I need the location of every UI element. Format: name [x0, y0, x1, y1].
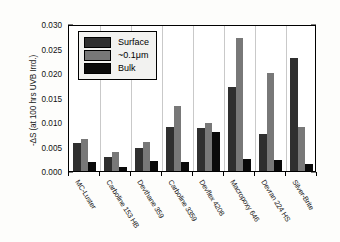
bar — [135, 148, 143, 171]
bar — [81, 139, 89, 171]
bar — [104, 157, 112, 171]
x-tick-mark — [130, 172, 131, 176]
bar — [305, 164, 313, 171]
gridline — [162, 26, 163, 171]
chart-figure: -ΔS (at 100 hrs UVB Irrd.) 0.0000.0050.0… — [0, 0, 340, 242]
y-tick-label: 0.000 — [22, 168, 62, 177]
legend-label: Bulk — [118, 64, 136, 73]
x-tick-label: Silver-Brite — [290, 178, 316, 212]
x-tick-label: Carboline 3359 — [166, 178, 199, 223]
legend-label: ~0.1μm — [118, 51, 148, 60]
legend-swatch — [84, 37, 111, 48]
x-tick-label: Devflex 4208 — [197, 178, 226, 217]
legend-item: Bulk — [84, 62, 149, 75]
legend-item: Surface — [84, 36, 149, 49]
bar — [212, 132, 220, 171]
x-tick-mark — [192, 172, 193, 176]
bar — [290, 58, 298, 171]
x-tick-mark — [99, 172, 100, 176]
y-tick-label: 0.005 — [22, 143, 62, 152]
bar — [197, 128, 205, 171]
y-tick-label: 0.010 — [22, 119, 62, 128]
y-tick-label: 0.025 — [22, 45, 62, 54]
x-tick-mark — [285, 172, 286, 176]
bar — [73, 143, 81, 171]
x-tick-label: Macropoxy 646 — [228, 178, 261, 223]
legend: Surface~0.1μmBulk — [78, 31, 157, 80]
x-tick-mark — [68, 172, 69, 176]
legend-item: ~0.1μm — [84, 49, 149, 62]
bar — [150, 161, 158, 171]
bar — [267, 73, 275, 171]
bar — [228, 87, 236, 171]
gridline — [224, 26, 225, 171]
legend-swatch — [84, 63, 111, 74]
x-tick-mark — [223, 172, 224, 176]
bar — [259, 134, 267, 171]
x-tick-label: MC-Luster — [73, 178, 98, 211]
bar — [119, 167, 127, 171]
gridline — [286, 26, 287, 171]
x-tick-mark — [254, 172, 255, 176]
bar — [112, 152, 120, 171]
x-tick-mark — [316, 172, 317, 176]
y-tick-label: 0.030 — [22, 21, 62, 30]
bar — [274, 160, 282, 171]
bar — [88, 162, 96, 171]
y-tick-label: 0.015 — [22, 94, 62, 103]
legend-swatch — [84, 50, 111, 61]
bar — [174, 106, 182, 171]
bar — [236, 38, 244, 171]
bar — [166, 127, 174, 171]
bar — [243, 159, 251, 171]
bar — [298, 127, 306, 171]
y-tick-label: 0.020 — [22, 70, 62, 79]
x-tick-label: Devran 224 HS — [259, 178, 292, 223]
bar — [205, 123, 213, 171]
x-tick-mark — [161, 172, 162, 176]
gridline — [193, 26, 194, 171]
x-tick-label: Carboline 153 HB — [104, 178, 141, 230]
gridline — [255, 26, 256, 171]
bar — [181, 162, 189, 171]
legend-label: Surface — [118, 38, 149, 47]
bar — [143, 142, 151, 171]
x-tick-label: Devthane 359 — [135, 178, 166, 220]
